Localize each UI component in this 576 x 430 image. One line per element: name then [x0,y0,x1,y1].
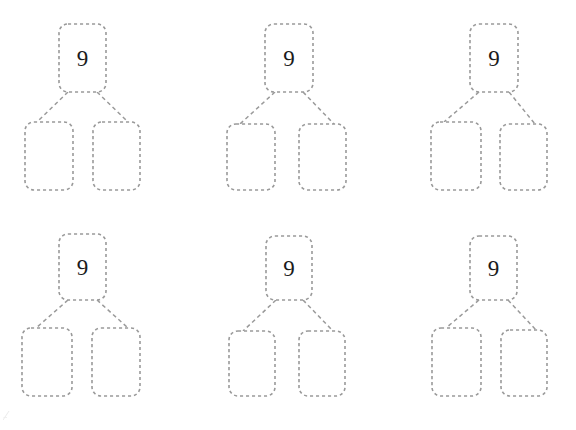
bond-4-graphic: 9 [0,210,192,430]
connector-left-5 [243,300,276,331]
part-box-3-right[interactable] [500,124,547,190]
connector-left-6 [446,300,479,328]
bond-5-graphic: 9 [192,210,384,430]
part-box-1-right[interactable] [93,122,140,190]
number-bond-3: 9 [384,0,576,210]
page-corner-artifact [3,411,14,421]
part-box-4-left[interactable] [22,328,72,396]
bond-6-graphic: 9 [384,210,576,430]
number-bond-4: 9 [0,210,192,430]
connector-right-2 [303,92,334,124]
whole-value-3: 9 [488,46,500,71]
number-bond-1: 9 [0,0,192,210]
whole-value-1: 9 [77,46,89,71]
whole-value-2: 9 [283,46,295,71]
bond-2-graphic: 9 [192,0,384,210]
bond-1-graphic: 9 [0,0,192,210]
part-box-3-left[interactable] [431,122,481,190]
part-box-6-left[interactable] [432,328,481,396]
part-box-4-right[interactable] [92,328,140,396]
number-bond-5: 9 [192,210,384,430]
whole-value-4: 9 [77,255,89,280]
worksheet-canvas: 9 9 9 [0,0,576,430]
part-box-5-right[interactable] [299,331,345,396]
part-box-2-left[interactable] [227,124,275,190]
number-bond-2: 9 [192,0,384,210]
part-box-5-left[interactable] [229,331,275,396]
part-box-1-left[interactable] [25,122,73,190]
part-box-2-right[interactable] [299,124,346,190]
bond-3-graphic: 9 [384,0,576,210]
connector-right-4 [97,300,128,328]
connector-left-2 [240,92,275,124]
connector-right-3 [509,92,535,124]
number-bond-6: 9 [384,210,576,430]
connector-right-1 [97,92,128,122]
connector-left-4 [36,300,68,328]
connector-left-1 [37,92,68,122]
connector-right-5 [303,300,333,331]
connector-left-3 [444,92,479,122]
whole-value-5: 9 [283,256,295,281]
whole-value-6: 9 [488,256,500,281]
part-box-6-right[interactable] [501,330,547,396]
connector-right-6 [508,300,536,330]
